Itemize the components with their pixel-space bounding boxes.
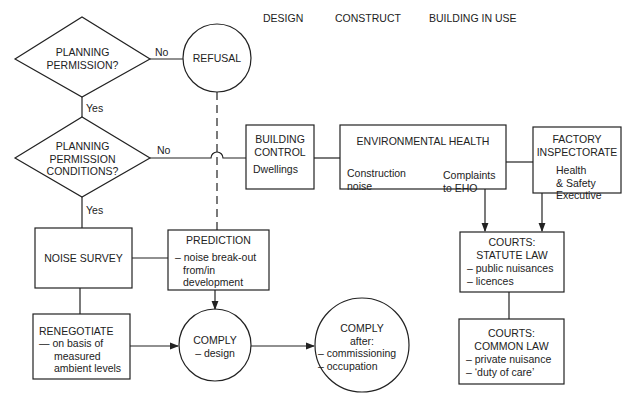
comply-design-label: COMPLY – design <box>179 334 251 359</box>
prediction-body: – noise break-out from/in development <box>175 251 256 289</box>
line: measured <box>39 350 121 363</box>
planning-conditions-label: PLANNING PERMISSION CONDITIONS? <box>40 140 125 178</box>
line: – noise break-out <box>175 251 256 264</box>
line: BUILDING <box>246 133 314 146</box>
planning-permission-label: PLANNING PERMISSION? <box>45 46 120 71</box>
edge-label-yes-2: Yes <box>86 204 103 217</box>
environmental-health-title: ENVIRONMENTAL HEALTH <box>340 135 506 148</box>
line: – commissioning <box>318 347 396 360</box>
line: – licences <box>467 275 553 288</box>
phase-design: DESIGN <box>263 12 303 25</box>
courts-statute-title: COURTS: STATUTE LAW <box>460 236 564 261</box>
noise-survey-label: NOISE SURVEY <box>35 252 132 265</box>
edge-label-no-2: No <box>157 144 170 157</box>
line: INSPECTORATE <box>533 146 621 159</box>
prediction-title: PREDICTION <box>168 234 269 247</box>
comply-after-title: COMPLY after: <box>318 322 406 347</box>
environmental-health-left: Construction noise <box>347 167 406 192</box>
edge-label-yes-1: Yes <box>86 102 103 115</box>
line: Executive <box>556 189 602 202</box>
line: PLANNING <box>40 140 125 153</box>
courts-statute-body: – public nuisances – licences <box>467 262 553 287</box>
phase-construct: CONSTRUCT <box>335 12 401 25</box>
line: Complaints <box>443 169 496 182</box>
refusal-label: REFUSAL <box>185 52 249 65</box>
line: from/in <box>175 264 256 277</box>
building-control-title: BUILDING CONTROL <box>246 133 314 158</box>
line: – public nuisances <box>467 262 553 275</box>
courts-common-body: – private nuisance – ‘duty of care’ <box>466 353 551 378</box>
line: – private nuisance <box>466 353 551 366</box>
line: CONTROL <box>246 146 314 159</box>
edge-label-no-1: No <box>155 46 168 59</box>
courts-common-title: COURTS: COMMON LAW <box>459 327 564 352</box>
line: COURTS: <box>460 236 564 249</box>
renegotiate-title: RENEGOTIATE <box>39 325 113 338</box>
line: after: <box>318 335 406 348</box>
line: – occupation <box>318 360 396 373</box>
line: COMPLY <box>179 334 251 347</box>
renegotiate-body: — on basis of measured ambient levels <box>39 337 121 375</box>
line: CONDITIONS? <box>40 165 125 178</box>
line: Health <box>556 164 602 177</box>
factory-inspectorate-body: Health & Safety Executive <box>556 164 602 202</box>
line: ambient levels <box>39 362 121 375</box>
comply-after-body: – commissioning – occupation <box>318 347 396 372</box>
line: PERMISSION? <box>45 59 120 72</box>
line: COMPLY <box>318 322 406 335</box>
line: noise <box>347 180 406 193</box>
line: STATUTE LAW <box>460 249 564 262</box>
line: COMMON LAW <box>459 340 564 353</box>
line: PLANNING <box>45 46 120 59</box>
line: – design <box>179 347 251 360</box>
line: development <box>175 276 256 289</box>
line: FACTORY <box>533 133 621 146</box>
line: & Safety <box>556 177 602 190</box>
line: PERMISSION <box>40 153 125 166</box>
line: — on basis of <box>39 337 121 350</box>
line: to EHO <box>443 182 496 195</box>
line: – ‘duty of care’ <box>466 366 551 379</box>
environmental-health-right: Complaints to EHO <box>443 169 496 194</box>
line: COURTS: <box>459 327 564 340</box>
phase-building-in-use: BUILDING IN USE <box>429 12 517 25</box>
line: Construction <box>347 167 406 180</box>
factory-inspectorate-title: FACTORY INSPECTORATE <box>533 133 621 158</box>
building-control-body: Dwellings <box>253 163 298 176</box>
